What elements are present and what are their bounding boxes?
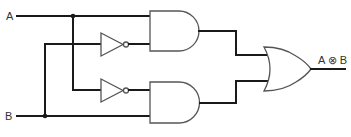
xor-logic-circuit: A B A ⊗ B [0,0,351,137]
and-gate-upper [150,11,199,51]
junction-a [71,14,76,19]
wire-and-upper-to-or [199,31,268,55]
input-label-b: B [5,110,12,122]
not-gate-lower [101,79,129,102]
wire-input-a [17,16,150,90]
and-gate-lower [150,82,199,123]
input-label-a: A [6,10,14,22]
or-gate [264,47,311,91]
junction-b [43,114,48,119]
wire-input-b [17,44,150,116]
not-gate-upper [101,33,129,56]
wire-and-lower-to-or [200,81,268,103]
output-label: A ⊗ B [318,54,347,66]
